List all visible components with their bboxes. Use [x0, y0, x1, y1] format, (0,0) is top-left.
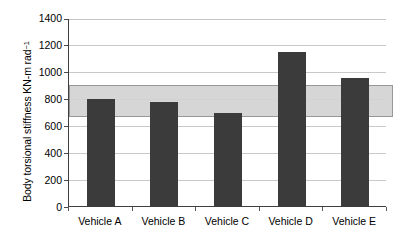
- y-axis-title-text: Body torsional stiffness KN-m rad: [21, 50, 33, 202]
- bar-vehicle-d[interactable]: [278, 52, 306, 208]
- x-tick-mark-2: [195, 207, 196, 211]
- x-tick-mark-4: [322, 207, 323, 211]
- bar-vehicle-b[interactable]: [150, 102, 178, 207]
- x-tick-mark-5: [386, 207, 387, 211]
- bar-vehicle-e[interactable]: [341, 78, 369, 207]
- x-tick-label-vehicle-e: Vehicle E: [314, 215, 394, 227]
- x-tick-mark-3: [259, 207, 260, 211]
- gridline-1000: [69, 72, 386, 73]
- bar-chart: Body torsional stiffness KN-m rad−1 0200…: [0, 0, 407, 243]
- x-tick-mark-1: [132, 207, 133, 211]
- x-tick-mark-0: [68, 207, 69, 211]
- y-axis-title: Body torsional stiffness KN-m rad−1: [18, 0, 36, 243]
- bar-vehicle-a[interactable]: [87, 99, 115, 207]
- gridline-1200: [69, 45, 386, 46]
- plot-area: [68, 19, 386, 208]
- bar-vehicle-c[interactable]: [214, 113, 242, 207]
- gridline-1400: [69, 19, 386, 20]
